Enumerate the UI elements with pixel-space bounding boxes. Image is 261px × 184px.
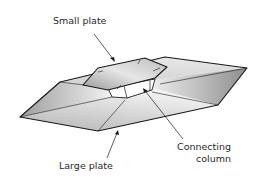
label-connecting-column-line2: column (175, 153, 231, 164)
small-plate-arrowhead (110, 57, 115, 62)
large-plate-arrowhead (115, 130, 119, 135)
label-large-plate: Large plate (59, 160, 113, 171)
small-plate-leader (94, 34, 113, 59)
label-small-plate: Small plate (53, 15, 106, 26)
large-plate-leader (107, 133, 117, 158)
label-connecting-column-line1: Connecting (175, 141, 231, 152)
